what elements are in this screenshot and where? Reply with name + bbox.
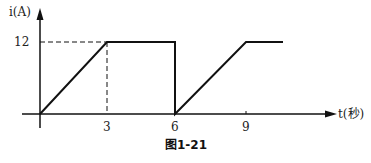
x-tick-label-6: 6 — [171, 120, 179, 134]
y-axis-label: i(A) — [9, 5, 31, 19]
y-axis-arrow-icon — [37, 8, 44, 20]
waveform-line — [40, 42, 283, 114]
figure-caption: 图1-21 — [165, 138, 207, 152]
x-tick-label-9: 9 — [242, 120, 250, 134]
x-axis-arrow-icon — [325, 111, 337, 118]
x-axis-label: t(秒) — [338, 107, 364, 121]
current-waveform-chart: i(A) 12 3 6 9 t(秒) 图1-21 — [0, 0, 371, 163]
x-tick-label-3: 3 — [103, 120, 111, 134]
y-tick-label-12: 12 — [14, 35, 29, 49]
